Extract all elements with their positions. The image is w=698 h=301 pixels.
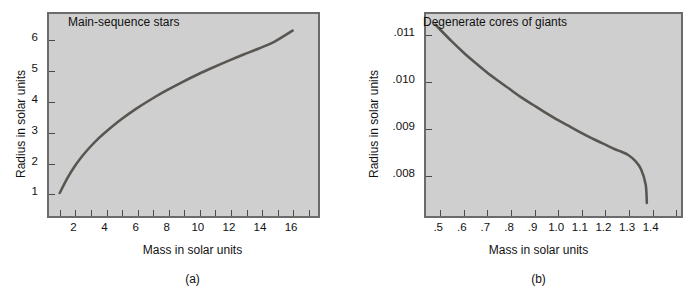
- x-axis-tick-label: 6: [132, 222, 138, 234]
- y-axis-tick: [49, 102, 55, 103]
- x-axis-tick-label: 10: [191, 222, 204, 234]
- y-axis-tick-label: .008: [349, 168, 415, 180]
- x-axis-tick-label: .9: [528, 222, 538, 234]
- x-axis-tick: [231, 210, 232, 216]
- y-axis-tick: [49, 133, 55, 134]
- plot-area-b: [424, 12, 683, 218]
- figure-two-panel-stellar-radius-charts: Main-sequence stars Mass in solar units …: [0, 0, 698, 301]
- x-axis-tick: [582, 210, 583, 216]
- data-curve-degenerate-cores: [435, 25, 647, 203]
- y-axis-tick-label: .009: [349, 121, 415, 133]
- x-axis-tick-label: 1.2: [595, 222, 611, 234]
- plot-canvas-a: [49, 14, 318, 216]
- x-axis-tick: [629, 210, 630, 216]
- y-axis-tick: [426, 129, 432, 130]
- x-axis-tick: [200, 210, 201, 216]
- x-axis-tick: [309, 210, 310, 216]
- x-axis-tick: [511, 210, 512, 216]
- x-axis-tick: [75, 210, 76, 216]
- x-axis-tick-label: 14: [254, 222, 267, 234]
- y-axis-tick: [49, 71, 55, 72]
- x-axis-tick: [293, 210, 294, 216]
- x-axis-tick: [215, 210, 216, 216]
- x-axis-tick: [676, 210, 677, 216]
- x-axis-tick-label: 8: [163, 222, 169, 234]
- y-axis-tick: [49, 164, 55, 165]
- x-axis-tick: [278, 210, 279, 216]
- x-axis-tick-label: .8: [504, 222, 514, 234]
- y-axis-tick-label: 2: [0, 156, 38, 168]
- y-axis-tick-label: 1: [0, 187, 38, 199]
- x-axis-tick-label: 1.1: [572, 222, 588, 234]
- chart-panel-b: Degenerate cores of giants Mass in solar…: [349, 0, 698, 301]
- x-axis-tick: [653, 210, 654, 216]
- y-axis-tick-label: 5: [0, 63, 38, 75]
- x-axis-tick: [440, 210, 441, 216]
- y-axis-tick: [49, 194, 55, 195]
- x-axis-tick: [122, 210, 123, 216]
- plot-canvas-b: [426, 14, 681, 216]
- y-axis-tick-label: 6: [0, 32, 38, 44]
- x-axis-tick: [184, 210, 185, 216]
- x-axis-tick-label: .6: [457, 222, 467, 234]
- x-axis-tick: [535, 210, 536, 216]
- plot-title-b: Degenerate cores of giants: [423, 15, 567, 29]
- plot-title-a: Main-sequence stars: [68, 15, 179, 29]
- x-axis-tick: [169, 210, 170, 216]
- y-axis-tick-label: 4: [0, 94, 38, 106]
- x-axis-tick: [605, 210, 606, 216]
- y-axis-tick: [426, 176, 432, 177]
- x-axis-tick: [60, 210, 61, 216]
- panel-caption-b: (b): [349, 272, 698, 286]
- panel-caption-a: (a): [0, 272, 349, 286]
- data-curve-main-sequence: [60, 31, 293, 193]
- x-axis-tick-label: 4: [101, 222, 107, 234]
- x-axis-tick-label: 2: [70, 222, 76, 234]
- y-axis-tick-label: .010: [349, 74, 415, 86]
- plot-area-a: [47, 12, 320, 218]
- x-axis-tick: [464, 210, 465, 216]
- x-axis-tick: [262, 210, 263, 216]
- x-axis-tick: [487, 210, 488, 216]
- y-axis-tick: [426, 35, 432, 36]
- y-axis-tick-label: .011: [349, 27, 415, 39]
- x-axis-tick: [91, 210, 92, 216]
- x-axis-label-a: Mass in solar units: [0, 243, 349, 257]
- x-axis-tick: [107, 210, 108, 216]
- y-axis-tick-label: 3: [0, 125, 38, 137]
- x-axis-tick: [558, 210, 559, 216]
- y-axis-tick: [426, 82, 432, 83]
- x-axis-tick: [247, 210, 248, 216]
- chart-panel-a: Main-sequence stars Mass in solar units …: [0, 0, 349, 301]
- x-axis-tick: [153, 210, 154, 216]
- x-axis-tick-label: 1.0: [548, 222, 564, 234]
- y-axis-tick: [49, 40, 55, 41]
- x-axis-tick-label: 1.4: [643, 222, 659, 234]
- x-axis-label-b: Mass in solar units: [349, 243, 698, 257]
- x-axis-tick-label: 1.3: [619, 222, 635, 234]
- x-axis-tick: [138, 210, 139, 216]
- x-axis-tick-label: 12: [222, 222, 235, 234]
- x-axis-tick-label: .5: [433, 222, 443, 234]
- x-axis-tick-label: .7: [481, 222, 491, 234]
- x-axis-tick-label: 16: [285, 222, 298, 234]
